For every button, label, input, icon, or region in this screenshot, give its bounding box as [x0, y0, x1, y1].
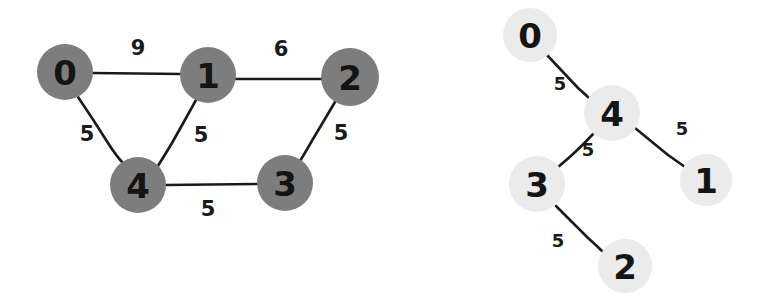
tree-node-0[interactable]: 0	[503, 8, 557, 62]
tree-node-4-label: 4	[600, 94, 624, 134]
edge-weight-1-2: 6	[274, 37, 289, 61]
edge-weight-0-4: 5	[80, 122, 95, 146]
diagram-canvas: 0 1 2 3 4 9 6 5 5 5 5	[0, 0, 757, 303]
right-tree-panel: 0 4 3 1 2 5 5 5 5	[503, 8, 732, 293]
tree-node-1-label: 1	[694, 161, 718, 201]
edge-2-3	[300, 102, 335, 161]
node-0-label: 0	[53, 53, 77, 93]
left-graph-panel: 0 1 2 3 4 9 6 5 5 5 5	[37, 36, 379, 221]
tree-edge-weight-4-1: 5	[676, 118, 689, 139]
edge-weight-1-4: 5	[194, 123, 209, 147]
edge-weight-2-3: 5	[334, 121, 349, 145]
edge-weight-4-3: 5	[201, 197, 216, 221]
edge-1-4	[156, 100, 196, 169]
edge-weight-0-1: 9	[131, 36, 146, 60]
node-4[interactable]: 4	[110, 157, 166, 213]
tree-edge-weight-4-3: 5	[582, 139, 595, 160]
tree-node-0-label: 0	[518, 16, 542, 56]
node-1[interactable]: 1	[180, 47, 236, 103]
node-0[interactable]: 0	[37, 44, 93, 100]
node-1-label: 1	[196, 56, 220, 96]
edge-4-3	[166, 184, 257, 185]
tree-node-2[interactable]: 2	[598, 239, 652, 293]
node-2[interactable]: 2	[321, 48, 379, 106]
tree-node-3[interactable]: 3	[509, 156, 565, 212]
graph-illustration: 0 1 2 3 4 9 6 5 5 5 5	[0, 0, 757, 303]
tree-node-2-label: 2	[613, 247, 637, 287]
tree-node-4[interactable]: 4	[584, 85, 640, 141]
node-4-label: 4	[126, 166, 150, 206]
tree-edge-weight-3-2: 5	[552, 230, 565, 251]
tree-edge-weight-0-4: 5	[554, 73, 567, 94]
node-2-label: 2	[338, 58, 362, 98]
tree-node-3-label: 3	[525, 165, 549, 205]
node-3-label: 3	[273, 164, 297, 204]
tree-node-1[interactable]: 1	[680, 154, 732, 206]
edge-0-1	[92, 73, 181, 74]
node-3[interactable]: 3	[257, 155, 313, 211]
